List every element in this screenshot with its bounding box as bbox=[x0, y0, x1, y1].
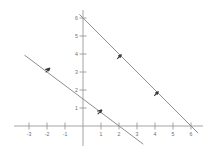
line-a-marker-1 bbox=[117, 55, 121, 59]
y-tick-label-3: 3 bbox=[75, 69, 78, 75]
x-tick-label-6: 6 bbox=[190, 131, 193, 137]
series-line-b bbox=[25, 55, 144, 144]
x-tick-label-2: 2 bbox=[118, 131, 121, 137]
x-tick-label--3: -3 bbox=[27, 131, 32, 137]
line-a-path bbox=[79, 14, 198, 133]
y-tick-label-1: 1 bbox=[75, 105, 78, 111]
x-tick-label-1: 1 bbox=[100, 131, 103, 137]
x-tick-label--2: -2 bbox=[45, 131, 50, 137]
x-tick-label-4: 4 bbox=[154, 131, 157, 137]
y-tick-label-group: 1 2 3 4 5 6 bbox=[75, 15, 78, 111]
x-tick-label-3: 3 bbox=[136, 131, 139, 137]
line-a-marker-2 bbox=[154, 92, 158, 96]
y-tick-label-5: 5 bbox=[75, 33, 78, 39]
line-b-path bbox=[25, 55, 144, 144]
chart-canvas: -3 -2 -1 1 2 3 4 5 6 1 2 3 4 5 6 bbox=[0, 0, 207, 151]
x-tick-label-group: -3 -2 -1 1 2 3 4 5 6 bbox=[27, 131, 193, 137]
y-tick-label-6: 6 bbox=[75, 15, 78, 21]
line-chart: -3 -2 -1 1 2 3 4 5 6 1 2 3 4 5 6 bbox=[0, 0, 207, 151]
x-tick-label--1: -1 bbox=[63, 131, 68, 137]
y-tick-label-2: 2 bbox=[75, 87, 78, 93]
line-b-marker-1 bbox=[45, 68, 50, 72]
x-tick-label-5: 5 bbox=[172, 131, 175, 137]
y-tick-label-4: 4 bbox=[75, 51, 78, 57]
series-line-a bbox=[79, 14, 198, 133]
axes-group bbox=[14, 10, 203, 146]
